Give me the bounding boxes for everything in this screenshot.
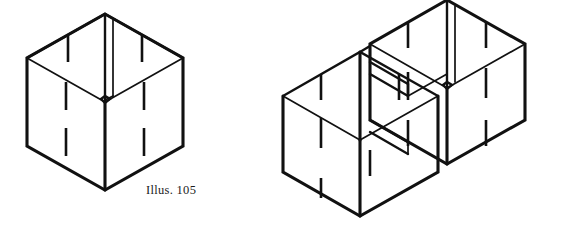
figure-illus-106: Illus. 106 xyxy=(275,0,570,243)
caption-illus-105: Illus. 105 xyxy=(146,183,196,198)
illus-106-line-art xyxy=(275,0,570,243)
figure-sheet: Illus. 105 xyxy=(0,0,570,243)
figure-illus-105: Illus. 105 xyxy=(0,0,285,243)
illus-105-line-art xyxy=(0,0,285,243)
